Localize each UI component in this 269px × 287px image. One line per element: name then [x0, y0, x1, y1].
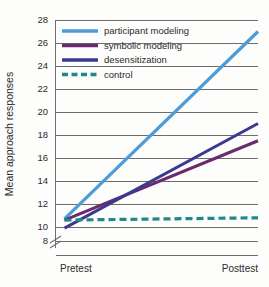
y-tick-label: 18: [37, 129, 48, 140]
legend-label: participant modeling: [104, 25, 189, 36]
y-axis-title: Mean approach responses: [3, 72, 15, 196]
y-tick-label: 24: [37, 60, 48, 71]
x-tick-label-posttest: Posttest: [222, 263, 258, 274]
y-tick-label: 8: [43, 235, 48, 246]
y-tick-label: 28: [37, 14, 48, 25]
y-tick-label: 12: [37, 198, 48, 209]
y-tick-label: 16: [37, 152, 48, 163]
legend-label: symbolic modeling: [104, 40, 182, 51]
chart-figure: 810121416182022242628 Mean approach resp…: [0, 0, 269, 287]
legend-label: control: [104, 69, 133, 80]
x-tick-label-pretest: Pretest: [60, 263, 92, 274]
y-tick-label: 26: [37, 37, 48, 48]
legend-label: desensitization: [104, 54, 167, 65]
line-chart: 810121416182022242628 Mean approach resp…: [0, 0, 269, 287]
y-tick-label: 10: [37, 221, 48, 232]
y-tick-label: 14: [37, 175, 48, 186]
y-tick-label: 20: [37, 106, 48, 117]
y-tick-label: 22: [37, 83, 48, 94]
